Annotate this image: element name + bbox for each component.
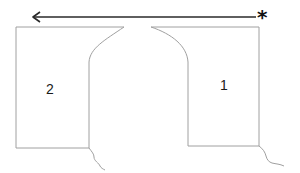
left-block-tail (89, 148, 105, 170)
asterisk-marker: * (257, 7, 267, 27)
diagram-canvas: * 2 1 (0, 0, 300, 173)
left-arrow (33, 12, 256, 22)
right-block-outline (151, 27, 259, 146)
right-block-label: 1 (220, 78, 228, 92)
right-block-tail (259, 146, 284, 166)
left-block-label: 2 (46, 82, 54, 96)
left-block-outline (16, 27, 124, 148)
diagram-svg (0, 0, 300, 173)
